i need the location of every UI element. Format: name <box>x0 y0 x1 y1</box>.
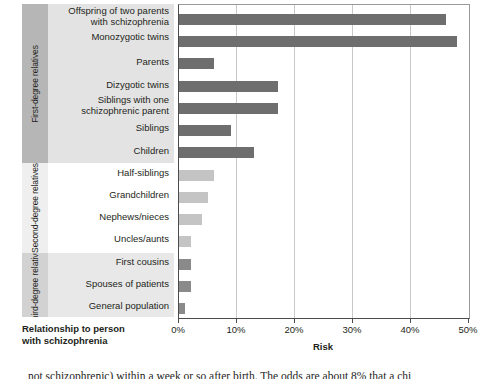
bar-half-siblings <box>179 170 214 181</box>
bar-siblings <box>179 125 231 136</box>
y-axis-title: Relationship to person with schizophreni… <box>22 323 172 346</box>
page-body-text: not schizophrenic) within a week or so a… <box>28 370 488 379</box>
bar-offspring-two-parents <box>179 14 446 25</box>
bar-spouses-of-patients <box>179 281 191 292</box>
category-label: Offspring of two parents with schizophre… <box>68 6 169 27</box>
x-tick-10 <box>236 318 237 323</box>
x-tick-label: 10% <box>216 324 256 335</box>
category-label: Uncles/aunts <box>114 234 169 245</box>
category-label: Dizygotic twins <box>106 80 169 91</box>
x-tick-0 <box>178 318 179 323</box>
x-axis-title: Risk <box>178 341 468 352</box>
x-tick-label: 20% <box>274 324 314 335</box>
group-label-second-degree: Second-degree relatives <box>30 163 40 253</box>
bar-uncles-aunts <box>179 236 191 247</box>
gridline-40 <box>410 5 411 318</box>
x-tick-20 <box>294 318 295 323</box>
plot-area <box>178 4 470 319</box>
bar-first-cousins <box>179 259 191 270</box>
x-tick-label: 50% <box>448 324 488 335</box>
schizophrenia-risk-chart: First-degree relatives Second-degree rel… <box>0 0 501 360</box>
bar-children <box>179 147 254 158</box>
gridline-20 <box>294 5 295 318</box>
x-tick-label: 30% <box>332 324 372 335</box>
x-tick-label: 40% <box>390 324 430 335</box>
bar-grandchildren <box>179 192 208 203</box>
gridline-30 <box>352 5 353 318</box>
group-band-third-degree: Third-degree relatives <box>22 253 48 317</box>
category-label: Siblings <box>136 123 169 134</box>
category-label: Grandchildren <box>109 190 169 201</box>
category-label: Parents <box>136 57 169 68</box>
category-label: General population <box>89 301 169 312</box>
x-tick-30 <box>352 318 353 323</box>
group-band-first-degree: First-degree relatives <box>22 4 48 163</box>
bar-siblings-one-parent <box>179 103 278 114</box>
group-label-third-degree: Third-degree relatives <box>30 253 40 317</box>
bar-nephews-nieces <box>179 214 202 225</box>
x-tick-50 <box>468 318 469 323</box>
bar-general-population <box>179 303 185 314</box>
group-band-second-degree: Second-degree relatives <box>22 163 48 253</box>
category-label: Siblings with one schizophrenic parent <box>81 95 169 116</box>
category-label: Children <box>134 146 169 157</box>
gridline-10 <box>236 5 237 318</box>
bar-parents <box>179 58 214 69</box>
category-label: First cousins <box>116 257 169 268</box>
category-label: Nephews/nieces <box>99 212 169 223</box>
category-label: Monozygotic twins <box>91 32 169 43</box>
bar-dizygotic-twins <box>179 81 278 92</box>
group-label-first-degree: First-degree relatives <box>30 45 40 123</box>
bar-monozygotic-twins <box>179 36 457 47</box>
category-label: Spouses of patients <box>86 279 169 290</box>
category-label: Half-siblings <box>117 168 169 179</box>
x-tick-40 <box>410 318 411 323</box>
